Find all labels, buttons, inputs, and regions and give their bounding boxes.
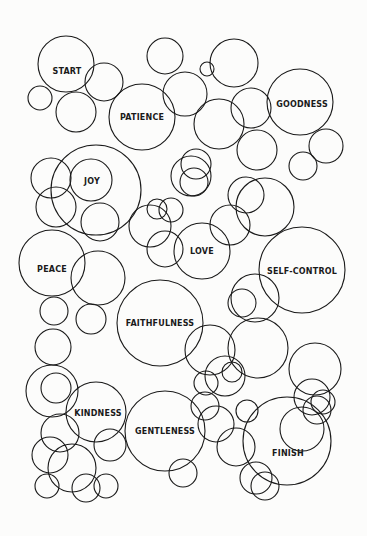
maze-circle [41,373,71,403]
label-patience: PATIENCE [120,113,164,122]
maze-circle [228,289,256,317]
maze-circle [185,325,235,375]
maze-circle [198,406,234,442]
maze-circle [76,304,106,334]
maze-circle [71,251,125,305]
maze-circle [222,362,242,382]
maze-circle [40,297,68,325]
maze-circle [210,39,258,87]
maze-circle [228,318,288,378]
maze-circle [169,459,197,487]
label-start: START [52,67,81,76]
maze-circle [180,168,208,196]
maze-circle [236,178,294,236]
label-gentleness: GENTLENESS [135,427,195,436]
maze-circle [147,199,167,219]
maze-circle [32,437,68,473]
label-peace: PEACE [37,265,67,274]
label-faithfulness: FAITHFULNESS [126,319,195,328]
circle-maze-page: START PATIENCE GOODNESS JOY LOVE PEACE S… [0,0,367,536]
maze-circle [303,396,331,424]
label-goodness: GOODNESS [276,100,328,109]
maze-circle [159,198,183,222]
maze-circle [237,130,277,170]
label-finish: FINISH [272,449,304,458]
maze-circle [210,205,250,245]
maze-circle [231,88,271,128]
maze-circle [200,62,214,76]
label-joy: JOY [84,177,100,186]
maze-circle [41,414,79,452]
maze-circle [94,474,118,498]
maze-circle [129,205,171,247]
maze-circle [289,152,317,180]
maze-circle [56,92,96,132]
maze-circle [163,72,207,116]
maze-circle [51,145,141,235]
maze-circle [36,187,76,227]
maze-circle [94,429,126,461]
maze-circle [147,38,183,74]
maze-circle [194,99,244,149]
maze-circle [147,231,183,267]
maze-circle [240,462,272,494]
label-kindness: KINDNESS [74,409,121,418]
maze-circle [251,472,279,500]
maze-circle [243,397,331,485]
maze-circle [35,329,71,365]
label-self-control: SELF-CONTROL [267,267,337,276]
label-love: LOVE [190,247,214,256]
maze-circle [28,86,52,110]
maze-circle [205,356,245,396]
maze-circle [217,428,255,466]
maze-circle [228,177,264,213]
maze-circle [280,407,324,451]
